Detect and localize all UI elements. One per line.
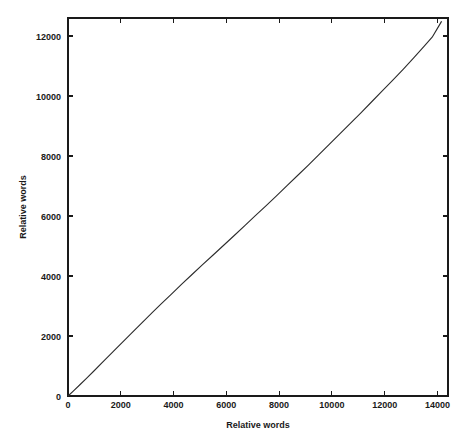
x-tick-label-4000: 4000 (164, 400, 184, 410)
relative-words-line-chart: 02000400060008000100001200014000 0200040… (0, 0, 475, 439)
y-tick-label-4000: 4000 (41, 272, 61, 282)
x-tick-label-14000: 14000 (425, 400, 450, 410)
chart-background (0, 0, 475, 439)
y-tick-label-0: 0 (56, 392, 61, 402)
y-tick-label-2000: 2000 (41, 332, 61, 342)
y-tick-label-10000: 10000 (36, 92, 61, 102)
x-tick-label-8000: 8000 (269, 400, 289, 410)
x-tick-label-0: 0 (65, 400, 70, 410)
y-axis-title: Relative words (18, 175, 28, 239)
y-tick-label-6000: 6000 (41, 212, 61, 222)
x-axis-title: Relative words (226, 420, 290, 430)
y-tick-label-8000: 8000 (41, 152, 61, 162)
x-tick-label-6000: 6000 (216, 400, 236, 410)
chart-figure: 02000400060008000100001200014000 0200040… (0, 0, 475, 439)
x-tick-label-2000: 2000 (111, 400, 131, 410)
x-tick-label-12000: 12000 (372, 400, 397, 410)
y-tick-label-12000: 12000 (36, 32, 61, 42)
x-tick-label-10000: 10000 (319, 400, 344, 410)
